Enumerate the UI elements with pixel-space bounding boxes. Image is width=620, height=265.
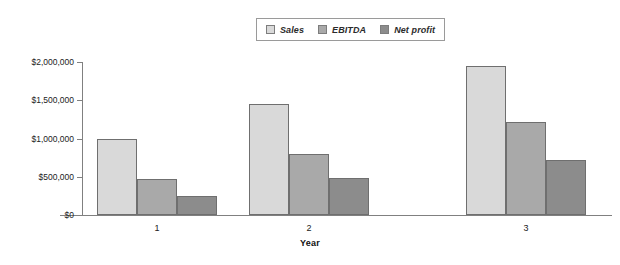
legend-label: Net profit	[394, 25, 435, 35]
y-axis-tick-label: $1,000,000	[31, 134, 74, 144]
bar-net-profit-year-2[interactable]	[329, 178, 369, 215]
bar-ebitda-year-3[interactable]	[506, 122, 546, 215]
bar-ebitda-year-1[interactable]	[137, 179, 177, 215]
bar-sales-year-3[interactable]	[466, 66, 506, 215]
legend-label: EBITDA	[332, 25, 366, 35]
bar-net-profit-year-3[interactable]	[546, 160, 586, 215]
legend-entry-net-profit[interactable]: Net profit	[380, 25, 435, 35]
bar-sales-year-1[interactable]	[97, 139, 137, 216]
x-axis-line	[60, 215, 612, 216]
y-axis-tick-label: $1,500,000	[31, 95, 74, 105]
legend-entry-ebitda[interactable]: EBITDA	[318, 25, 366, 35]
plot-area	[82, 62, 585, 215]
x-axis-tick-label: 3	[523, 223, 528, 233]
bar-chart: SalesEBITDANet profit $0$500,000$1,000,0…	[0, 0, 620, 265]
bar-net-profit-year-1[interactable]	[177, 196, 217, 215]
legend-label: Sales	[280, 25, 304, 35]
chart-legend: SalesEBITDANet profit	[256, 18, 445, 41]
legend-swatch-icon	[380, 25, 389, 34]
y-axis-tick-label: $0	[65, 210, 74, 220]
x-axis-title: Year	[0, 238, 620, 248]
legend-swatch-icon	[266, 25, 275, 34]
y-axis-tick-label: $2,000,000	[31, 57, 74, 67]
x-axis-tick-label: 1	[154, 223, 159, 233]
x-axis-tick-label: 2	[306, 223, 311, 233]
legend-entry-sales[interactable]: Sales	[266, 25, 304, 35]
bar-ebitda-year-2[interactable]	[289, 154, 329, 215]
y-axis-tick-mark	[77, 215, 82, 216]
legend-swatch-icon	[318, 25, 327, 34]
y-axis-tick-label: $500,000	[39, 172, 74, 182]
bar-sales-year-2[interactable]	[249, 104, 289, 215]
